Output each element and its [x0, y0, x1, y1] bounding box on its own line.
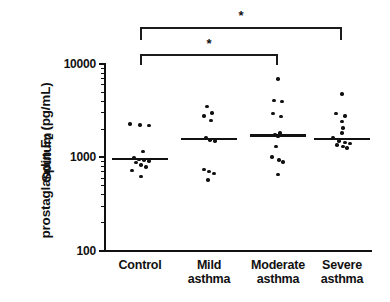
data-point [212, 172, 215, 175]
data-point [271, 112, 274, 115]
data-point [340, 120, 343, 123]
data-point [139, 175, 142, 178]
y-axis-minor-tick [101, 78, 105, 79]
y-axis-major-tick [99, 250, 106, 252]
data-point [207, 170, 210, 173]
y-axis-minor-tick [101, 68, 105, 69]
data-point [130, 169, 133, 172]
bracket-left-arm [140, 27, 142, 40]
y-axis-tick-label: 1000 [38, 150, 96, 164]
data-point [348, 142, 351, 145]
median-line [181, 138, 237, 140]
data-point [279, 115, 282, 118]
data-point [341, 145, 344, 148]
data-point [206, 178, 209, 181]
data-point [147, 124, 150, 127]
median-line [314, 138, 370, 140]
data-point [335, 143, 338, 146]
y-axis-minor-tick [101, 194, 105, 195]
y-axis-minor-tick [101, 185, 105, 186]
y-axis-major-tick [99, 156, 106, 158]
median-line [112, 158, 168, 160]
x-axis-line [104, 250, 372, 252]
y-axis-minor-tick [101, 222, 105, 223]
significance-bracket-control-moderate [140, 54, 278, 65]
y-axis-tick-label: 10000 [38, 57, 96, 71]
data-point [272, 99, 275, 102]
y-axis-major-tick [99, 63, 106, 65]
data-point [341, 126, 344, 129]
y-axis-minor-tick [101, 161, 105, 162]
median-line [250, 134, 306, 136]
y-axis-minor-tick [101, 73, 105, 74]
bracket-left-arm [140, 54, 142, 65]
y-axis-minor-tick [101, 112, 105, 113]
data-point [202, 114, 205, 117]
chart-figure: Sputum prostaglandin E2 (pg/mL) 10000100… [0, 0, 390, 302]
y-axis-minor-tick [101, 206, 105, 207]
y-axis-minor-tick [101, 171, 105, 172]
data-point [138, 123, 141, 126]
x-axis-label-line2: asthma [297, 272, 387, 286]
significance-asterisk-control-severe: * [226, 11, 256, 21]
data-point [276, 77, 279, 80]
y-axis-minor-tick [101, 101, 105, 102]
data-point [128, 122, 131, 125]
y-axis-title-subscript: 2 [44, 134, 55, 139]
data-point [334, 112, 337, 115]
data-point [276, 173, 279, 176]
data-point [281, 160, 284, 163]
data-point [202, 168, 205, 171]
x-axis-label-line1: Severe [297, 258, 387, 272]
data-point [209, 119, 212, 122]
data-point [144, 165, 147, 168]
data-point [340, 92, 343, 95]
data-point [280, 100, 283, 103]
data-point [343, 141, 346, 144]
x-axis-label-severe-asthma: Severeasthma [297, 258, 387, 286]
data-point [274, 145, 277, 148]
data-point [345, 146, 348, 149]
bracket-top-line [140, 54, 278, 56]
significance-bracket-control-severe [140, 27, 342, 40]
data-point [210, 111, 213, 114]
data-point [141, 150, 144, 153]
significance-asterisk-control-moderate: * [194, 39, 224, 49]
data-point [340, 131, 343, 134]
y-axis-minor-tick [101, 166, 105, 167]
bracket-top-line [140, 27, 342, 29]
bracket-right-arm [276, 54, 278, 65]
y-axis-title-line2-post: (pg/mL) [38, 82, 53, 134]
data-point [205, 105, 208, 108]
data-point [270, 155, 273, 158]
y-axis-minor-tick [101, 178, 105, 179]
y-axis-minor-tick [101, 84, 105, 85]
y-axis-tick-label: 100 [38, 244, 96, 258]
data-point [343, 114, 346, 117]
y-axis-minor-tick [101, 129, 105, 130]
data-point [139, 163, 142, 166]
data-point [277, 158, 280, 161]
y-axis-minor-tick [101, 92, 105, 93]
data-point [134, 161, 137, 164]
bracket-right-arm [340, 27, 342, 40]
